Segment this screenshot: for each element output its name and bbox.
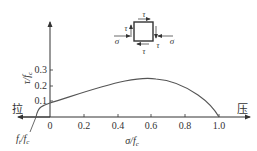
tau-top-label: τ — [143, 10, 147, 19]
chart: 0 0.2 0.4 0.6 0.8 1.0 0.1 0.2 0.3 τ/fc σ… — [0, 0, 257, 151]
y-axis-label: τ/fc — [21, 71, 34, 84]
y-tick-0.3: 0.3 — [35, 64, 48, 75]
svg-text:τ/fc: τ/fc — [21, 71, 34, 84]
compression-label: 压 — [237, 103, 248, 115]
x-tick-0: 0 — [48, 120, 53, 131]
y-tick-0.2: 0.2 — [35, 80, 48, 91]
x-tick-0.8: 0.8 — [179, 120, 192, 131]
tau-right-label: τ — [157, 41, 161, 50]
sigma-left-label: σ — [115, 36, 120, 46]
x-axis-label: σ/fc — [125, 135, 140, 148]
x-tick-1.0: 1.0 — [213, 120, 226, 131]
tension-label: 拉 — [12, 102, 23, 115]
tau-left-label: τ — [125, 24, 129, 33]
stress-element-square — [134, 22, 153, 41]
x-tick-0.2: 0.2 — [78, 120, 91, 131]
ft-leader-line — [30, 117, 36, 132]
x-tick-0.4: 0.4 — [112, 120, 125, 131]
ft-fc-label: ft/fc — [16, 133, 30, 146]
tau-bottom-label: τ — [143, 47, 147, 56]
stress-element-diagram: τ τ τ τ σ σ — [114, 10, 175, 56]
sigma-right-label: σ — [170, 36, 175, 46]
failure-envelope-curve — [36, 78, 219, 117]
x-tick-0.6: 0.6 — [145, 120, 158, 131]
